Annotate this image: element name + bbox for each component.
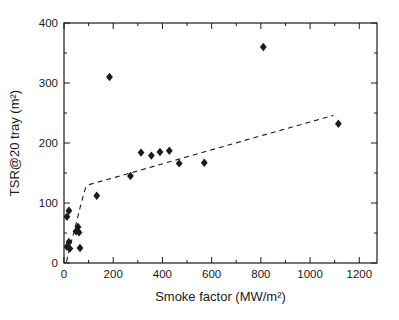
data-point xyxy=(176,159,183,167)
data-point xyxy=(201,159,208,167)
data-point xyxy=(148,151,155,159)
data-point xyxy=(77,244,84,252)
data-point xyxy=(260,43,267,51)
trend-line xyxy=(67,115,334,261)
x-tick-label: 0 xyxy=(61,268,67,280)
data-point xyxy=(157,148,164,156)
data-point xyxy=(335,120,342,128)
y-axis-label: TSR@20 tray (m²) xyxy=(7,90,22,196)
data-point xyxy=(93,192,100,200)
x-tick-label: 600 xyxy=(202,268,221,280)
y-tick-label: 100 xyxy=(39,197,58,209)
plot-frame xyxy=(64,23,377,263)
x-tick-label: 1000 xyxy=(297,268,323,280)
x-tick-label: 1200 xyxy=(346,268,372,280)
y-tick-label: 0 xyxy=(52,257,58,269)
data-point xyxy=(138,148,145,156)
y-tick-label: 400 xyxy=(39,17,58,29)
data-point xyxy=(106,73,113,81)
x-tick-label: 400 xyxy=(153,268,172,280)
figure-canvas: 0200400600800100012000100200300400Smoke … xyxy=(0,0,399,320)
x-axis-label: Smoke factor (MW/m²) xyxy=(155,289,286,304)
x-tick-label: 800 xyxy=(251,268,270,280)
y-tick-label: 300 xyxy=(39,77,58,89)
data-point xyxy=(166,147,173,155)
y-tick-label: 200 xyxy=(39,137,58,149)
x-tick-label: 200 xyxy=(104,268,123,280)
scatter-plot: 0200400600800100012000100200300400Smoke … xyxy=(0,0,399,320)
data-point xyxy=(127,172,134,180)
